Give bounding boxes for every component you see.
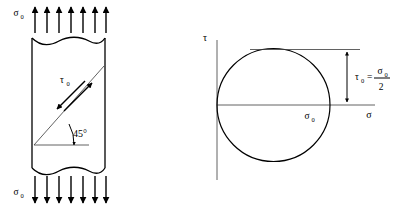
relation-numerator-symbol: σ	[377, 66, 382, 76]
relation-tau-subscript: 0	[361, 77, 364, 84]
figure-root: σ 0 τ 0 45°	[0, 0, 395, 211]
top-load-label: σ	[13, 8, 18, 18]
bar-top-break-line	[32, 37, 105, 44]
tau-axis-label: τ	[203, 32, 207, 43]
sigma-zero-label: σ	[304, 111, 309, 121]
bottom-load-label-subscript: 0	[20, 192, 23, 199]
relation-numerator-subscript: 0	[384, 71, 387, 78]
bottom-load-label: σ	[13, 187, 18, 197]
relation-equals-sign: =	[367, 72, 372, 82]
max-shear-relation-annotation: τ 0 = σ 0 2	[355, 66, 390, 92]
shear-label: τ	[60, 75, 64, 85]
mohr-circle-diagram: τ σ σ 0 τ 0 = σ 0 2	[203, 32, 390, 180]
relation-tau-symbol: τ	[355, 72, 359, 82]
bottom-load-arrow-group	[35, 176, 106, 203]
shear-label-subscript: 0	[66, 80, 69, 87]
tension-bar-diagram: σ 0 τ 0 45°	[13, 7, 106, 203]
sigma-axis-label: σ	[366, 109, 372, 120]
angle-label: 45°	[73, 128, 87, 139]
bar-bottom-break-line	[32, 167, 105, 174]
top-load-arrow-group	[35, 7, 106, 33]
top-load-label-subscript: 0	[20, 13, 23, 20]
sigma-zero-label-subscript: 0	[311, 116, 314, 123]
figure-canvas: σ 0 τ 0 45°	[0, 0, 395, 211]
relation-denominator: 2	[379, 82, 384, 92]
